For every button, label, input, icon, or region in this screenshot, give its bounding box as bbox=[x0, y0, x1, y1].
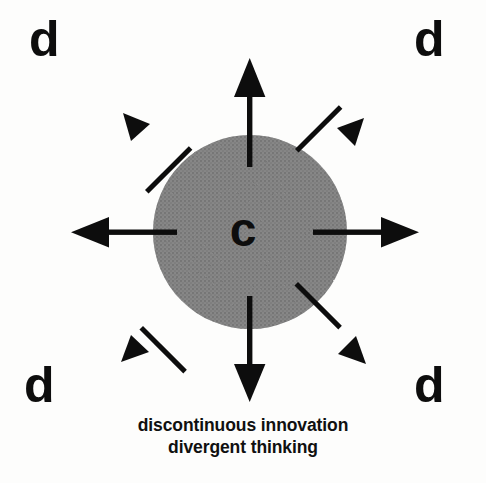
center-label: c bbox=[0, 206, 486, 254]
arrow-northeast bbox=[295, 105, 364, 152]
diagram-canvas: d d d d c discontinuous innovation diver… bbox=[0, 0, 486, 483]
arrow-southwest bbox=[121, 326, 187, 373]
arrow-southeast bbox=[294, 282, 366, 364]
caption: discontinuous innovation divergent think… bbox=[0, 414, 486, 459]
caption-line-1: discontinuous innovation bbox=[0, 414, 486, 436]
corner-letter-bottom-left: d bbox=[24, 360, 54, 410]
corner-letter-top-right: d bbox=[414, 14, 444, 64]
caption-line-2: divergent thinking bbox=[0, 436, 486, 458]
corner-letter-top-left: d bbox=[29, 14, 59, 64]
corner-letter-bottom-right: d bbox=[414, 360, 444, 410]
